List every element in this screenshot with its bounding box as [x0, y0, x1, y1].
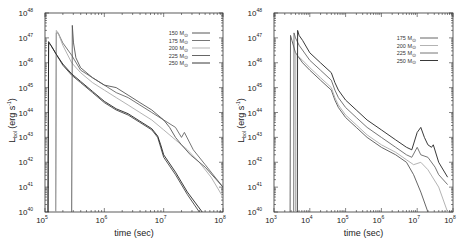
tick-exponent: 48 [256, 7, 262, 13]
right-panel: 1031041051061071081040104110421043104410… [235, 7, 456, 238]
y-tick-label: 1045 [248, 82, 263, 93]
x-axis-label: time (sec) [114, 228, 154, 238]
tick-exponent: 41 [256, 181, 262, 187]
legend-mass: 250 [397, 58, 406, 64]
x-tick-label: 107 [408, 214, 420, 225]
tick-exponent: 7 [164, 214, 167, 220]
tick-exponent: 46 [27, 57, 33, 63]
legend-label: 200 M⊙ [397, 43, 416, 51]
tick-exponent: 5 [45, 214, 48, 220]
y-tick-label: 1044 [248, 107, 263, 118]
legend-mass: 200 [397, 43, 406, 49]
x-tick-label: 107 [155, 214, 167, 225]
tick-exponent: 43 [256, 131, 262, 137]
y-tick-label: 1042 [19, 156, 34, 167]
legend-mass: 150 [169, 30, 178, 36]
tick-exponent: 6 [381, 214, 384, 220]
tick-exponent: 44 [256, 107, 262, 113]
y-tick-label: 1044 [19, 107, 34, 118]
x-tick-label: 104 [301, 214, 313, 225]
tick-exponent: 3 [274, 214, 277, 220]
tick-exponent: 7 [417, 214, 420, 220]
y-label-rest: (erg s [7, 105, 17, 131]
x-tick-label: 108 [444, 214, 456, 225]
legend-mass: 200 [169, 45, 178, 51]
tick-exponent: 45 [256, 82, 262, 88]
y-label-sub: bol [241, 131, 247, 138]
tick-exponent: 40 [27, 206, 33, 212]
y-tick-label: 1045 [19, 82, 34, 93]
y-tick-label: 1041 [19, 181, 34, 192]
sun-symbol-icon: ⊙ [412, 37, 416, 43]
y-tick-label: 1048 [19, 7, 34, 18]
legend-mass: 225 [169, 53, 178, 59]
series-line-200 [296, 53, 448, 212]
y-tick-label: 1043 [248, 131, 263, 142]
y-tick-label: 1040 [19, 206, 34, 217]
tick-exponent: 45 [27, 82, 33, 88]
y-tick-label: 1041 [248, 181, 263, 192]
legend-label: 250 M⊙ [397, 58, 416, 66]
sun-symbol-icon: ⊙ [184, 39, 188, 45]
tick-exponent: 42 [27, 156, 33, 162]
sun-symbol-icon: ⊙ [184, 32, 188, 38]
y-axis-label: Lbol (erg s-1) [6, 98, 18, 143]
series-line-225 [72, 25, 223, 212]
y-tick-label: 1043 [19, 131, 34, 142]
x-tick-label: 106 [95, 214, 107, 225]
legend-label: 150 M⊙ [169, 30, 188, 38]
legend-mass: 175 [169, 38, 178, 44]
sun-symbol-icon: ⊙ [412, 59, 416, 65]
tick-exponent: 5 [346, 214, 349, 220]
y-tick-label: 1046 [19, 57, 34, 68]
tick-exponent: 47 [27, 32, 33, 38]
y-axis-label: Lbol (erg s-1) [235, 98, 247, 143]
tick-exponent: 43 [27, 131, 33, 137]
legend-mass: 225 [397, 50, 406, 56]
y-tick-label: 1047 [19, 32, 34, 43]
plot-frame [274, 13, 453, 212]
y-label-rest: (erg s [236, 105, 246, 131]
tick-exponent: 6 [104, 214, 107, 220]
legend-label: 225 M⊙ [169, 53, 188, 61]
sun-symbol-icon: ⊙ [184, 54, 188, 60]
series-line-250 [48, 42, 202, 212]
tick-exponent: 48 [27, 7, 33, 13]
tick-exponent: 44 [27, 107, 33, 113]
y-tick-label: 1046 [248, 57, 263, 68]
left-panel: 1051061071081040104110421043104410451046… [6, 7, 226, 238]
legend-label: 175 M⊙ [397, 35, 416, 43]
x-tick-label: 106 [373, 214, 385, 225]
legend-label: 200 M⊙ [169, 45, 188, 53]
y-label-close: ) [7, 98, 17, 101]
tick-exponent: 40 [256, 206, 262, 212]
sun-symbol-icon: ⊙ [184, 47, 188, 53]
series-group [48, 25, 223, 212]
legend-label: 225 M⊙ [397, 50, 416, 58]
x-tick-label: 105 [36, 214, 48, 225]
tick-exponent: 8 [453, 214, 456, 220]
legend-label: 175 M⊙ [169, 38, 188, 46]
series-group [290, 30, 448, 212]
y-label-close: ) [236, 98, 246, 101]
tick-exponent: 4 [310, 214, 313, 220]
tick-exponent: 8 [223, 214, 226, 220]
sun-symbol-icon: ⊙ [412, 44, 416, 50]
legend-mass: 250 [169, 60, 178, 66]
legend: 175 M⊙200 M⊙225 M⊙250 M⊙ [397, 35, 438, 65]
y-label-sub: bol [12, 131, 18, 138]
x-tick-label: 105 [337, 214, 349, 225]
legend: 150 M⊙175 M⊙200 M⊙225 M⊙250 M⊙ [169, 30, 210, 68]
tick-exponent: 41 [27, 181, 33, 187]
x-tick-label: 108 [214, 214, 226, 225]
legend-mass: 175 [397, 35, 406, 41]
tick-exponent: 47 [256, 32, 262, 38]
y-tick-label: 1042 [248, 156, 263, 167]
series-line-150 [48, 43, 199, 212]
tick-exponent: 46 [256, 57, 262, 63]
y-tick-label: 1040 [248, 206, 263, 217]
x-tick-label: 103 [265, 214, 277, 225]
figure: 1051061071081040104110421043104410451046… [0, 0, 475, 241]
series-line-250 [297, 30, 447, 212]
tick-exponent: 42 [256, 156, 262, 162]
